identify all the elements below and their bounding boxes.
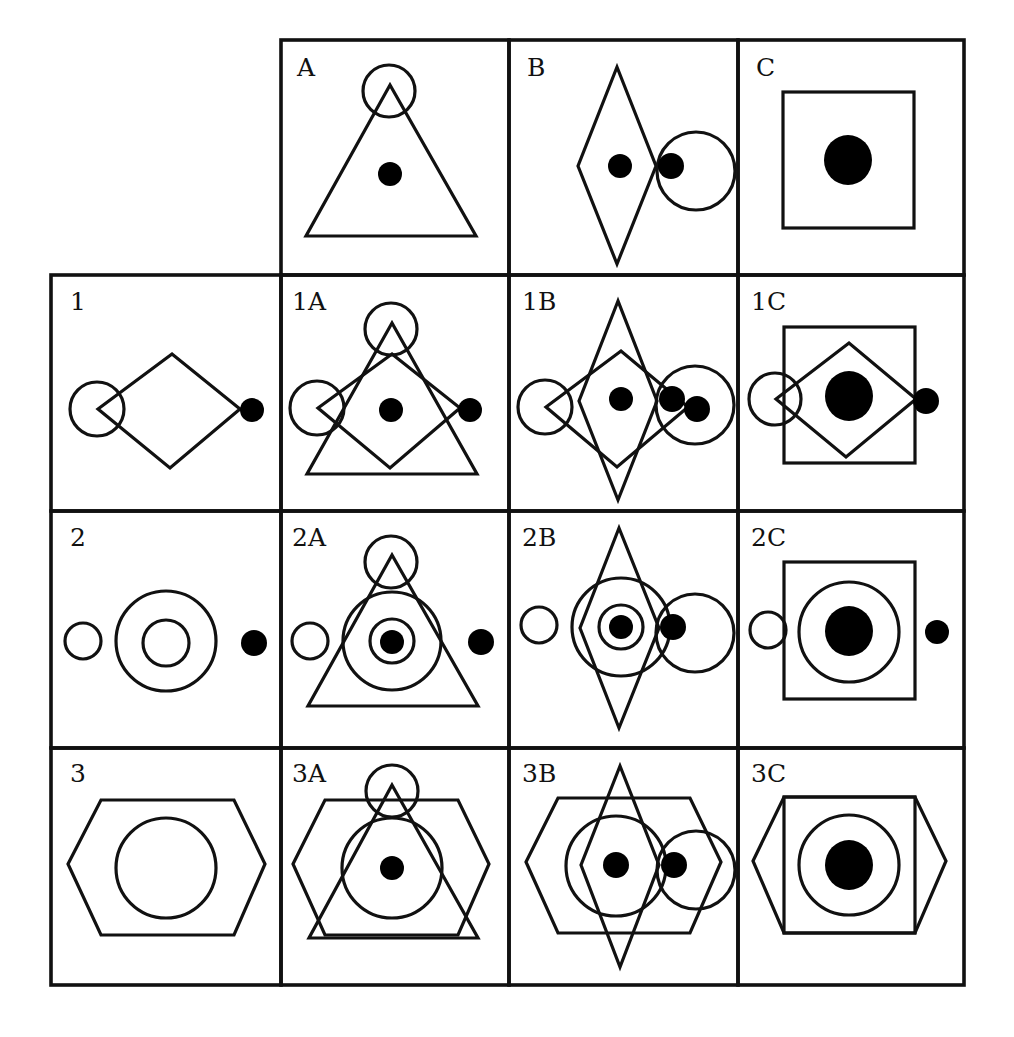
diamond-shape — [98, 354, 240, 468]
cell-b: B — [527, 53, 735, 264]
large-filled-dot-shape — [825, 371, 873, 421]
cell-label: 2A — [292, 523, 327, 552]
circle-shape — [292, 623, 328, 659]
filled-dot-shape — [608, 154, 632, 178]
filled-dot-shape — [458, 398, 482, 422]
filled-dot-shape — [603, 852, 629, 878]
cell-1: 1 — [70, 287, 264, 468]
filled-dot-shape — [380, 856, 404, 880]
cell-label: B — [527, 53, 545, 82]
cell-label: 2B — [522, 523, 556, 552]
cell-1b: 1B — [518, 287, 734, 500]
cell-frame-a — [281, 40, 509, 275]
filled-dot-shape — [378, 162, 402, 186]
circle-shape — [521, 607, 557, 643]
filled-dot-shape — [658, 153, 684, 179]
cell-label: 1C — [751, 287, 786, 316]
circle-shape — [116, 818, 216, 918]
cell-label: 2C — [751, 523, 786, 552]
circle-shape — [65, 623, 101, 659]
grid-lines — [51, 40, 964, 985]
filled-dot-shape — [913, 388, 939, 414]
cell-2b: 2B — [521, 523, 734, 728]
cell-3: 3 — [68, 759, 265, 935]
cell-a: A — [296, 53, 476, 236]
cell-label: 3 — [70, 759, 86, 788]
cell-1c: 1C — [749, 287, 939, 463]
filled-dot-shape — [659, 386, 685, 412]
large-filled-dot-shape — [825, 606, 873, 656]
cell-2a: 2A — [292, 523, 494, 706]
circle-shape — [365, 303, 417, 355]
large-filled-dot-shape — [825, 840, 873, 890]
cell-label: 2 — [70, 523, 86, 552]
cell-c: C — [756, 53, 914, 228]
filled-dot-shape — [468, 629, 494, 655]
filled-dot-shape — [609, 615, 633, 639]
cell-3a: 3A — [292, 759, 489, 938]
cell-label: A — [296, 53, 316, 82]
cell-label: 1B — [522, 287, 556, 316]
cell-label: 3B — [522, 759, 556, 788]
filled-dot-shape — [379, 398, 403, 422]
filled-dot-shape — [380, 630, 404, 654]
hexagon-shape — [68, 800, 265, 935]
shape-combination-grid: ABC11A1B1C22A2B2C33A3B3C — [0, 0, 1014, 1037]
circle-shape — [750, 612, 786, 648]
filled-dot-shape — [660, 614, 686, 640]
filled-dot-shape — [241, 630, 267, 656]
large-filled-dot-shape — [824, 135, 872, 185]
filled-dot-shape — [609, 387, 633, 411]
cell-2c: 2C — [750, 523, 949, 699]
filled-dot-shape — [661, 852, 687, 878]
cell-3c: 3C — [751, 759, 946, 933]
filled-dot-shape — [240, 398, 264, 422]
triangle-shape — [306, 85, 476, 236]
filled-dot-shape — [925, 620, 949, 644]
cell-label: 3C — [751, 759, 786, 788]
cell-label: 1A — [292, 287, 327, 316]
cell-1a: 1A — [290, 287, 482, 474]
cell-label: 3A — [292, 759, 327, 788]
filled-dot-shape — [684, 396, 710, 422]
circle-shape — [366, 765, 418, 817]
circle-shape — [365, 536, 417, 588]
cell-2: 2 — [65, 523, 267, 691]
circle-shape — [116, 591, 216, 691]
circle-shape — [143, 620, 189, 666]
cell-3b: 3B — [522, 759, 735, 967]
cell-label: C — [756, 53, 775, 82]
circle-shape — [363, 65, 415, 117]
cell-label: 1 — [70, 287, 86, 316]
